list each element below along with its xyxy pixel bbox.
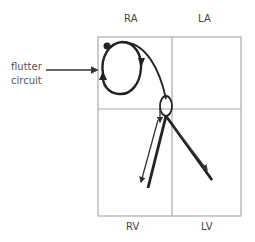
bundle-branches (141, 108, 212, 188)
flutter-loop (99, 42, 166, 99)
heart-schematic (0, 0, 255, 242)
chamber-grid (98, 37, 241, 216)
loop-arrowhead-up-icon (99, 71, 107, 80)
loop-arrowhead-down-icon (138, 58, 145, 68)
flutter-circuit-diagram: RA LA RV LV flutter circuit (0, 0, 255, 242)
